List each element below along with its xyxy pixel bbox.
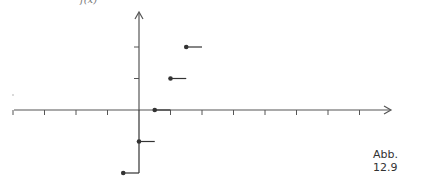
stray-mark — [12, 94, 14, 96]
closed-endpoint — [152, 108, 157, 113]
figure-caption: Abb. 12.9 — [373, 148, 423, 174]
closed-endpoint — [184, 45, 189, 50]
closed-endpoint — [168, 76, 173, 81]
step-function-plot — [0, 0, 423, 185]
closed-endpoint — [121, 171, 126, 176]
closed-endpoint — [137, 139, 142, 144]
